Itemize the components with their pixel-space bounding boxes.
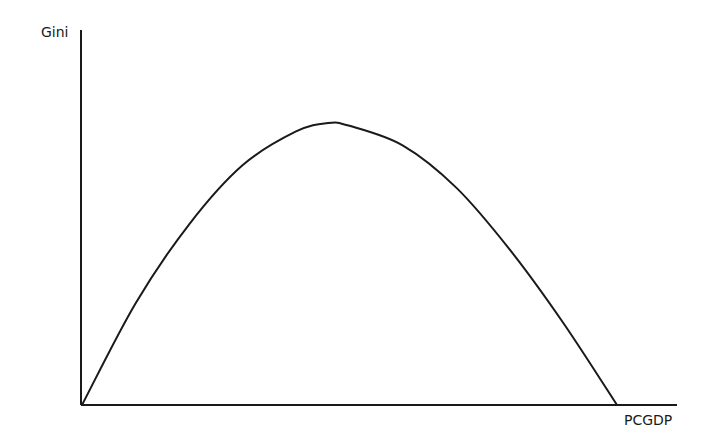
y-axis-label: Gini (41, 24, 69, 40)
kuznets-chart (0, 0, 716, 443)
x-axis-label: PCGDP (624, 412, 672, 428)
gini-curve (82, 122, 617, 405)
